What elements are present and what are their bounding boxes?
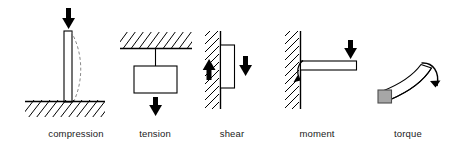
ceiling-hatch-icon <box>114 31 200 50</box>
vertical-column-icon <box>64 31 72 102</box>
panel-label-tension: tension <box>139 128 171 139</box>
panel-label-moment: moment <box>299 128 334 139</box>
up-arrow-icon <box>203 59 216 80</box>
ground-hatch-icon <box>20 100 114 118</box>
cantilever-beam-icon <box>301 61 357 70</box>
attached-block-icon <box>221 45 235 88</box>
suspended-block-icon <box>134 66 177 93</box>
down-arrow-icon <box>239 56 252 76</box>
panel-compression: compression <box>20 8 114 139</box>
down-arrow-icon <box>344 40 357 59</box>
down-arrow-icon <box>62 8 75 29</box>
panel-label-shear: shear <box>220 128 245 139</box>
mechanical-loading-diagram: compression <box>0 0 468 152</box>
panel-tension: tension <box>114 31 200 139</box>
square-end-face-icon <box>378 90 392 103</box>
panel-torque: torque <box>378 63 441 139</box>
panel-shear: shear <box>199 22 252 139</box>
panel-label-compression: compression <box>48 128 104 139</box>
panel-moment: moment <box>279 22 357 139</box>
panel-label-torque: torque <box>394 128 422 139</box>
down-arrow-icon <box>149 97 162 116</box>
